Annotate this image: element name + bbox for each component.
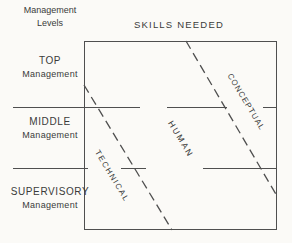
- management-levels-header-line1: Management: [24, 5, 77, 15]
- management-levels-header: Management Levels: [6, 4, 94, 30]
- level-top-name: TOP: [6, 54, 94, 68]
- level-label-top: TOP Management: [6, 54, 94, 81]
- level-middle-sub: Management: [6, 129, 94, 143]
- level-label-middle: MIDDLE Management: [6, 115, 94, 142]
- middle-supervisory-divider-segment-left: [13, 168, 88, 170]
- level-label-supervisory: SUPERVISORY Management: [6, 185, 94, 212]
- level-supervisory-name: SUPERVISORY: [6, 185, 94, 199]
- middle-supervisory-divider-segment-right: [203, 168, 277, 170]
- level-middle-name: MIDDLE: [6, 115, 94, 129]
- middle-supervisory-divider-segment-center: [121, 168, 146, 170]
- skills-needed-title: SKILLS NEEDED: [120, 19, 238, 30]
- managerial-skills-diagram: Management Levels SKILLS NEEDED TOP Mana…: [0, 0, 292, 243]
- top-middle-divider-segment-center: [167, 107, 227, 109]
- level-supervisory-sub: Management: [6, 199, 94, 213]
- top-middle-divider-segment-left: [13, 107, 140, 109]
- level-top-sub: Management: [6, 68, 94, 82]
- top-middle-divider-segment-right: [263, 107, 277, 109]
- management-levels-header-line2: Levels: [37, 18, 63, 28]
